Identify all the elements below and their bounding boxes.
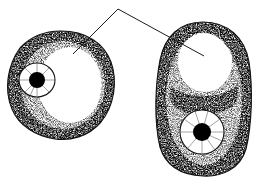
cell-diagram-figure bbox=[0, 0, 261, 183]
right-cell bbox=[145, 10, 261, 183]
cell-diagram-canvas bbox=[0, 0, 261, 183]
left-nucleolus bbox=[29, 72, 45, 88]
right-cell-nucleus bbox=[180, 110, 224, 154]
left-cell-nucleus bbox=[19, 63, 55, 97]
right-cell-vacuole-stipple bbox=[180, 34, 230, 90]
right-nucleolus bbox=[193, 123, 211, 141]
left-cell bbox=[0, 20, 130, 150]
